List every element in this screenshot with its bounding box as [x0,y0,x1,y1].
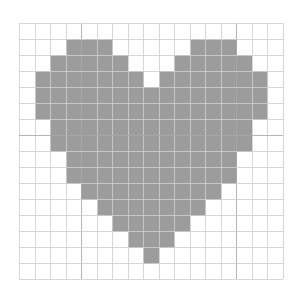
heart-pixel [143,167,159,184]
heart-pixel [50,55,66,72]
heart-pixel [128,183,144,200]
heart-pixel [174,215,190,232]
heart-pixel [205,167,221,184]
heart-pixel [66,135,82,152]
heart-pixel [174,55,190,72]
heart-pixel [190,135,206,152]
heart-pixel [128,215,144,232]
heart-pixel [143,151,159,168]
heart-pixel [190,87,206,104]
heart-pixel [128,103,144,120]
heart-pixel [190,119,206,136]
heart-pixel [205,119,221,136]
heart-pixel [205,39,221,56]
heart-pixel [143,199,159,216]
heart-pixel [97,135,113,152]
heart-pixel [252,71,268,88]
grid-line-vertical [267,23,268,279]
heart-pixel [190,39,206,56]
heart-pixel [236,119,252,136]
heart-pixel [174,103,190,120]
heart-pixel [81,103,97,120]
grid-line-vertical [35,23,36,279]
heart-pixel [128,71,144,88]
heart-pixel [143,135,159,152]
heart-pixel [128,231,144,248]
grid-line-horizontal [19,279,283,280]
heart-pixel [205,183,221,200]
heart-pixel [35,103,51,120]
heart-pixel [174,119,190,136]
heart-pixel [252,103,268,120]
heart-pixel [97,119,113,136]
heart-pixel [81,39,97,56]
heart-pixel [205,71,221,88]
heart-pixel [97,87,113,104]
heart-pixel [221,55,237,72]
heart-pixel [97,199,113,216]
heart-pixel [128,167,144,184]
heart-pixel [190,103,206,120]
heart-pixel [112,119,128,136]
heart-pixel [205,151,221,168]
heart-pixel [66,87,82,104]
heart-pixel [66,151,82,168]
heart-pixel [112,215,128,232]
grid-line-vertical [283,23,284,279]
heart-pixel [66,103,82,120]
heart-pixel [97,39,113,56]
heart-pixel [97,55,113,72]
heart-pixel [81,167,97,184]
heart-pixel [221,151,237,168]
heart-pixel [66,55,82,72]
heart-pixel [143,215,159,232]
heart-grid-figure [0,0,302,297]
heart-pixel [190,151,206,168]
heart-pixel [174,151,190,168]
heart-pixel [221,87,237,104]
heart-pixel [143,247,159,264]
heart-pixel [174,87,190,104]
heart-pixel [112,167,128,184]
heart-pixel [128,119,144,136]
heart-pixel [128,199,144,216]
heart-pixel [66,167,82,184]
heart-pixel [97,183,113,200]
heart-pixel [81,87,97,104]
heart-pixel [50,87,66,104]
heart-pixel [50,71,66,88]
heart-pixel [159,119,175,136]
heart-pixel [81,71,97,88]
heart-pixel [174,199,190,216]
heart-pixel [81,55,97,72]
heart-pixel [205,103,221,120]
heart-pixel [159,135,175,152]
heart-pixel [221,71,237,88]
heart-pixel [112,135,128,152]
heart-pixel [159,167,175,184]
heart-pixel [81,151,97,168]
grid-line-horizontal [19,23,283,24]
heart-pixel [128,135,144,152]
heart-pixel [112,55,128,72]
heart-pixel [66,119,82,136]
heart-pixel [50,119,66,136]
heart-pixel [221,167,237,184]
heart-pixel [190,55,206,72]
heart-pixel [97,167,113,184]
heart-pixel [221,135,237,152]
heart-pixel [50,103,66,120]
heart-pixel [143,103,159,120]
heart-pixel [190,183,206,200]
heart-pixel [159,151,175,168]
heart-pixel [174,71,190,88]
heart-pixel [112,183,128,200]
heart-pixel [81,183,97,200]
heart-pixel [205,55,221,72]
heart-pixel [112,87,128,104]
heart-pixel [174,183,190,200]
heart-pixel [174,135,190,152]
heart-pixel [236,103,252,120]
heart-pixel [112,71,128,88]
heart-pixel [112,103,128,120]
